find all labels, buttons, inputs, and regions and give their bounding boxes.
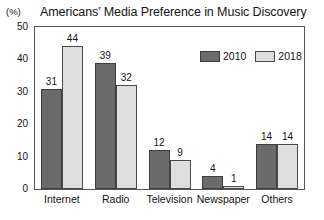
- chart-title: Americans’ Media Preference in Music Dis…: [40, 5, 320, 20]
- y-axis-unit-label: (%): [6, 6, 21, 17]
- bar-value-label: 14: [277, 132, 298, 142]
- legend: 2010 2018: [200, 51, 302, 62]
- x-tick-label-newspaper: Newspaper: [197, 193, 250, 205]
- x-axis-labels: InternetRadioTelevisionNewspaperOthers: [34, 193, 305, 213]
- legend-item-2018: 2018: [255, 51, 301, 62]
- bar-chart: (%) Americans’ Media Preference in Music…: [0, 0, 324, 220]
- bar-value-label: 32: [116, 73, 137, 83]
- bar-internet-2018: [62, 46, 83, 189]
- bar-newspaper-2010: [202, 176, 223, 189]
- legend-item-2010: 2010: [200, 51, 246, 62]
- bar-television-2018: [170, 160, 191, 189]
- y-tick-label: 10: [17, 152, 28, 162]
- bar-radio-2018: [116, 85, 137, 189]
- y-tick-label: 30: [17, 87, 28, 97]
- bar-newspaper-2018: [223, 186, 244, 189]
- bar-television-2010: [149, 150, 170, 189]
- bar-group: 3932: [95, 27, 137, 189]
- bar-value-label: 1: [223, 174, 244, 184]
- bar-group: 3144: [41, 27, 83, 189]
- x-tick-label-television: Television: [146, 193, 192, 205]
- y-tick-label: 40: [17, 54, 28, 64]
- bar-group: 129: [149, 27, 191, 189]
- y-tick-label: 0: [22, 184, 28, 194]
- bar-radio-2010: [95, 63, 116, 189]
- legend-label-2010: 2010: [223, 51, 246, 62]
- x-tick-label-internet: Internet: [44, 193, 80, 205]
- x-tick-label-radio: Radio: [102, 193, 129, 205]
- y-tick-label: 20: [17, 119, 28, 129]
- bar-value-label: 44: [62, 34, 83, 44]
- bar-value-label: 12: [149, 138, 170, 148]
- bar-value-label: 9: [170, 148, 191, 158]
- legend-swatch-2010: [200, 51, 220, 62]
- bar-others-2010: [256, 144, 277, 189]
- bar-value-label: 39: [95, 51, 116, 61]
- legend-swatch-2018: [255, 51, 275, 62]
- bar-value-label: 14: [256, 132, 277, 142]
- x-tick-label-others: Others: [261, 193, 293, 205]
- y-tick-label: 50: [17, 22, 28, 32]
- bar-value-label: 4: [202, 164, 223, 174]
- bar-value-label: 31: [41, 77, 62, 87]
- bar-others-2018: [277, 144, 298, 189]
- bar-internet-2010: [41, 89, 62, 189]
- legend-label-2018: 2018: [278, 51, 301, 62]
- y-axis-labels: 01020304050: [0, 26, 31, 190]
